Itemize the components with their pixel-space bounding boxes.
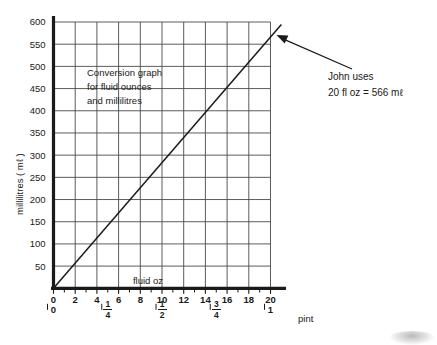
annotation-line-2: 20 fl oz = 566 mℓ (328, 87, 403, 98)
pint-axis-label: 0 (51, 304, 56, 315)
chart-note-line-3: and millilitres (87, 95, 142, 106)
pint-fraction-label: 12 (154, 300, 170, 319)
arrow-head-icon (277, 35, 289, 44)
y-axis-title: millilitres ( mℓ ) (14, 153, 25, 215)
x-axis-title: fluid oz (133, 275, 163, 286)
x-axis-tick-label: 18 (244, 294, 255, 305)
chart-note-line-1: Conversion graph (87, 67, 162, 78)
y-axis-tick-label: 250 (30, 172, 46, 183)
y-axis-tick-label: 550 (30, 39, 46, 50)
y-axis-tick-labels: 50100150200250300350400450500550600 (30, 16, 46, 271)
pint-axis-label: 1 (268, 304, 274, 315)
x-axis-tick-label: 2 (73, 294, 78, 305)
y-axis-tick-label: 600 (30, 16, 46, 27)
pint-fraction-label: 34 (208, 300, 224, 319)
pint-unit-label: pint (298, 313, 314, 324)
conversion-line (54, 25, 282, 289)
y-axis-tick-label: 100 (30, 238, 46, 249)
y-axis-tick-label: 500 (30, 61, 46, 72)
y-axis-tick-label: 400 (30, 105, 46, 116)
y-axis-tick-label: 150 (30, 216, 46, 227)
y-axis-tick-label: 300 (30, 150, 46, 161)
page-corner-smudge (389, 331, 435, 345)
y-axis-tick-label: 200 (30, 194, 46, 205)
grid (54, 22, 271, 288)
annotation-line-1: John uses (328, 71, 374, 82)
annotation-arrow (277, 35, 353, 69)
x-axis-tick-label: 8 (138, 294, 143, 305)
x-axis-tick-label: 12 (178, 294, 189, 305)
x-axis-tick-label: 6 (116, 294, 121, 305)
x-axis-ticks (54, 290, 271, 294)
axis-lines (51, 16, 286, 290)
data-series-line (54, 25, 282, 289)
y-axis-tick-label: 450 (30, 83, 46, 94)
chart-note-line-2: for fluid ounces (87, 81, 152, 92)
y-axis-tick-label: 350 (30, 127, 46, 138)
y-axis-tick-label: 50 (35, 261, 46, 272)
pint-fraction-label: 14 (100, 300, 116, 319)
